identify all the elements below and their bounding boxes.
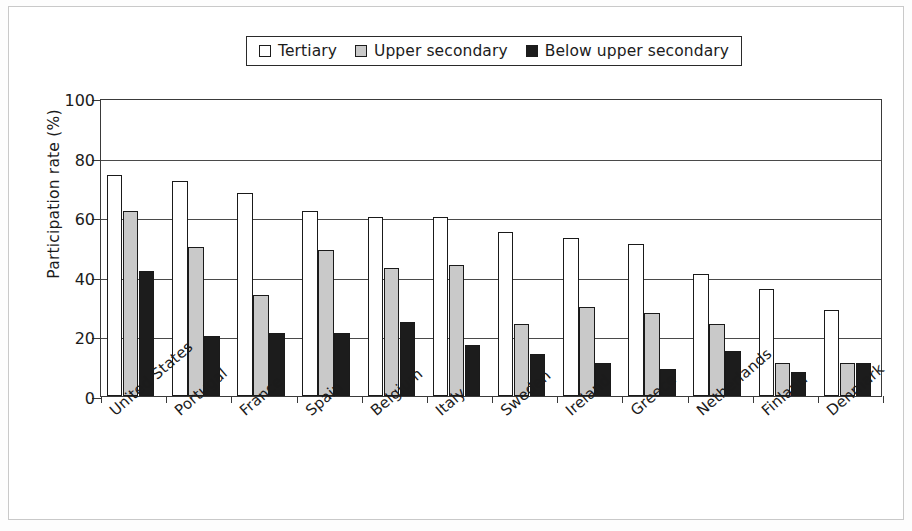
x-axis-tick [231, 396, 232, 403]
bar-group [759, 100, 807, 396]
bar-upper [123, 211, 139, 396]
legend-label-upper-secondary: Upper secondary [374, 42, 508, 60]
bar-below [465, 345, 481, 396]
legend-swatch-below-upper-secondary [526, 45, 538, 57]
bar-tertiary [498, 232, 514, 396]
legend-label-tertiary: Tertiary [278, 42, 337, 60]
bar-upper [579, 307, 595, 396]
x-axis-tick [492, 396, 493, 403]
bar-tertiary [824, 310, 840, 396]
y-axis-title: Participation rate (%) [45, 44, 63, 344]
bar-group [237, 100, 285, 396]
bar-group [302, 100, 350, 396]
bar-upper [775, 363, 791, 396]
bar-tertiary [302, 211, 318, 396]
bar-below [400, 322, 416, 397]
bar-upper [514, 324, 530, 396]
bar-upper [253, 295, 269, 396]
x-axis-tick [166, 396, 167, 403]
bar-tertiary [368, 217, 384, 396]
chart-legend: Tertiary Upper secondary Below upper sec… [246, 36, 742, 66]
y-axis-tick-label: 40 [75, 269, 95, 288]
bar-tertiary [172, 181, 188, 396]
bar-group [433, 100, 481, 396]
bar-below [530, 354, 546, 396]
bar-tertiary [693, 274, 709, 396]
legend-item-tertiary: Tertiary [259, 42, 337, 60]
bar-series-container [101, 100, 881, 396]
x-axis-tick [883, 396, 884, 403]
bar-tertiary [237, 193, 253, 396]
bar-below [139, 271, 155, 396]
bar-below [269, 333, 285, 396]
x-axis-tick [818, 396, 819, 403]
bar-below [595, 363, 611, 396]
chart-figure: Tertiary Upper secondary Below upper sec… [0, 0, 912, 531]
y-axis-tick-label: 60 [75, 210, 95, 229]
bar-upper [709, 324, 725, 396]
y-axis-tick-label: 0 [85, 389, 95, 408]
bar-below [725, 351, 741, 396]
y-axis-tick-label: 100 [64, 91, 95, 110]
bar-below [334, 333, 350, 396]
x-axis-tick [297, 396, 298, 403]
bar-tertiary [563, 238, 579, 396]
bar-group [824, 100, 872, 396]
y-axis-tick-label: 80 [75, 150, 95, 169]
x-axis-tick [101, 396, 102, 403]
legend-label-below-upper-secondary: Below upper secondary [545, 42, 729, 60]
plot-area: 020406080100 [100, 99, 882, 397]
legend-item-below-upper-secondary: Below upper secondary [526, 42, 729, 60]
bar-upper [188, 247, 204, 396]
bar-group [368, 100, 416, 396]
bar-group [107, 100, 155, 396]
bar-group [498, 100, 546, 396]
bar-below [660, 369, 676, 396]
bar-upper [449, 265, 465, 396]
bar-below [856, 363, 872, 396]
bar-tertiary [759, 289, 775, 396]
bar-upper [384, 268, 400, 396]
bar-tertiary [628, 244, 644, 396]
x-axis-tick [622, 396, 623, 403]
legend-swatch-tertiary [259, 45, 271, 57]
bar-upper [840, 363, 856, 396]
x-axis-tick [557, 396, 558, 403]
bar-group [628, 100, 676, 396]
bar-group [693, 100, 741, 396]
y-axis-tick-label: 20 [75, 329, 95, 348]
bar-tertiary [107, 175, 123, 396]
bar-tertiary [433, 217, 449, 396]
x-axis-tick [362, 396, 363, 403]
x-axis-tick [753, 396, 754, 403]
bar-group [563, 100, 611, 396]
legend-item-upper-secondary: Upper secondary [355, 42, 508, 60]
x-axis-tick [427, 396, 428, 403]
bar-below [204, 336, 220, 396]
bar-group [172, 100, 220, 396]
x-axis-tick [688, 396, 689, 403]
bar-upper [318, 250, 334, 396]
legend-swatch-upper-secondary [355, 45, 367, 57]
bar-below [791, 372, 807, 396]
bar-upper [644, 313, 660, 396]
